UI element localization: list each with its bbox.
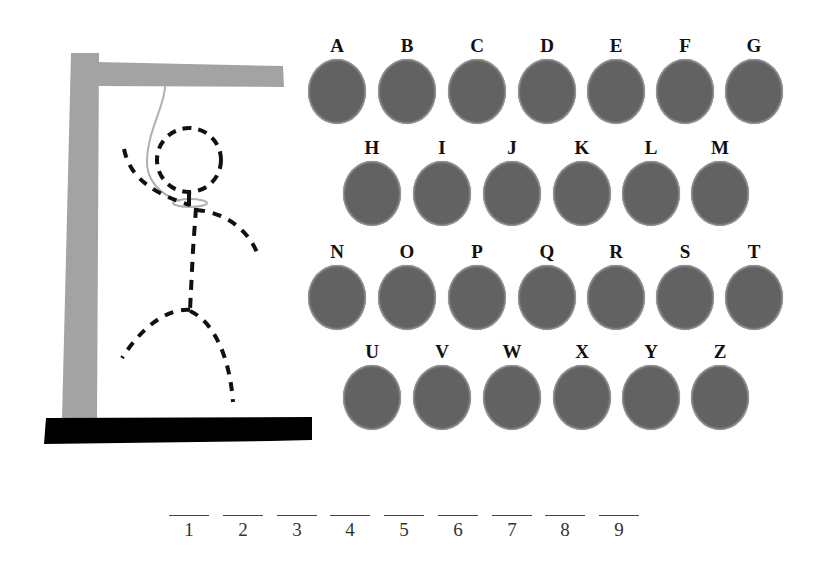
letter-circle[interactable] <box>378 59 436 124</box>
letter-circle[interactable] <box>725 265 783 330</box>
word-slot: 7 <box>492 515 532 545</box>
slot-line <box>384 515 424 516</box>
gallows-base <box>44 417 312 444</box>
figure-right-leg <box>190 311 233 402</box>
letter-button-b[interactable]: B <box>378 36 436 124</box>
letter-circle[interactable] <box>343 161 401 226</box>
slot-line <box>277 515 317 516</box>
letter-label: J <box>483 138 541 158</box>
letter-button-r[interactable]: R <box>587 242 645 330</box>
letter-button-t[interactable]: T <box>725 242 783 330</box>
letter-circle[interactable] <box>656 59 714 124</box>
letter-button-j[interactable]: J <box>483 138 541 226</box>
letter-label: Y <box>622 342 680 362</box>
letter-button-a[interactable]: A <box>308 36 366 124</box>
letter-label: X <box>553 342 611 362</box>
letter-circle[interactable] <box>553 161 611 226</box>
letter-button-n[interactable]: N <box>308 242 366 330</box>
figure-body <box>190 208 196 310</box>
letter-button-m[interactable]: M <box>691 138 749 226</box>
slot-line <box>599 515 639 516</box>
slot-line <box>169 515 209 516</box>
letter-label: G <box>725 36 783 56</box>
hangman-drawing <box>0 0 330 460</box>
letter-button-l[interactable]: L <box>622 138 680 226</box>
letter-button-i[interactable]: I <box>413 138 471 226</box>
letter-button-u[interactable]: U <box>343 342 401 430</box>
slot-number: 1 <box>169 519 209 541</box>
figure-head <box>157 128 221 192</box>
letter-circle[interactable] <box>656 265 714 330</box>
word-slot: 9 <box>599 515 639 545</box>
letter-label: W <box>483 342 541 362</box>
letter-button-g[interactable]: G <box>725 36 783 124</box>
letter-circle[interactable] <box>448 59 506 124</box>
letter-button-q[interactable]: Q <box>518 242 576 330</box>
slot-line <box>492 515 532 516</box>
slot-number: 6 <box>438 519 478 541</box>
letter-button-o[interactable]: O <box>378 242 436 330</box>
letter-circle[interactable] <box>622 365 680 430</box>
letter-label: N <box>308 242 366 262</box>
letter-circle[interactable] <box>622 161 680 226</box>
letter-label: C <box>448 36 506 56</box>
letter-button-f[interactable]: F <box>656 36 714 124</box>
slot-number: 9 <box>599 519 639 541</box>
slot-number: 5 <box>384 519 424 541</box>
word-slot: 5 <box>384 515 424 545</box>
letter-circle[interactable] <box>691 365 749 430</box>
slot-line <box>545 515 585 516</box>
gallows-post <box>62 53 99 420</box>
letter-circle[interactable] <box>483 161 541 226</box>
letter-circle[interactable] <box>518 59 576 124</box>
letter-circle[interactable] <box>691 161 749 226</box>
letter-button-p[interactable]: P <box>448 242 506 330</box>
letter-label: S <box>656 242 714 262</box>
letter-circle[interactable] <box>308 265 366 330</box>
letter-label: H <box>343 138 401 158</box>
letter-button-d[interactable]: D <box>518 36 576 124</box>
slot-number: 3 <box>277 519 317 541</box>
letter-circle[interactable] <box>413 161 471 226</box>
letter-button-h[interactable]: H <box>343 138 401 226</box>
letter-circle[interactable] <box>343 365 401 430</box>
letter-circle[interactable] <box>378 265 436 330</box>
letter-label: V <box>413 342 471 362</box>
letter-button-e[interactable]: E <box>587 36 645 124</box>
letter-label: F <box>656 36 714 56</box>
letter-button-s[interactable]: S <box>656 242 714 330</box>
letter-circle[interactable] <box>553 365 611 430</box>
letter-button-k[interactable]: K <box>553 138 611 226</box>
letter-label: O <box>378 242 436 262</box>
slot-line <box>223 515 263 516</box>
letter-button-y[interactable]: Y <box>622 342 680 430</box>
slot-number: 8 <box>545 519 585 541</box>
figure-left-leg <box>122 310 190 358</box>
letter-circle[interactable] <box>725 59 783 124</box>
letter-circle[interactable] <box>413 365 471 430</box>
letter-label: P <box>448 242 506 262</box>
word-slot: 3 <box>277 515 317 545</box>
figure-right-arm <box>196 210 259 258</box>
slot-number: 2 <box>223 519 263 541</box>
letter-button-w[interactable]: W <box>483 342 541 430</box>
letter-circle[interactable] <box>448 265 506 330</box>
slot-line <box>330 515 370 516</box>
letter-circle[interactable] <box>587 265 645 330</box>
letter-label: I <box>413 138 471 158</box>
slot-number: 4 <box>330 519 370 541</box>
letter-button-v[interactable]: V <box>413 342 471 430</box>
letter-circle[interactable] <box>308 59 366 124</box>
letter-button-z[interactable]: Z <box>691 342 749 430</box>
letter-circle[interactable] <box>518 265 576 330</box>
word-slot: 1 <box>169 515 209 545</box>
letter-label: R <box>587 242 645 262</box>
letter-label: A <box>308 36 366 56</box>
letter-label: M <box>691 138 749 158</box>
letter-circle[interactable] <box>483 365 541 430</box>
letter-circle[interactable] <box>587 59 645 124</box>
letter-button-x[interactable]: X <box>553 342 611 430</box>
word-slot: 6 <box>438 515 478 545</box>
letter-button-c[interactable]: C <box>448 36 506 124</box>
letter-label: Q <box>518 242 576 262</box>
